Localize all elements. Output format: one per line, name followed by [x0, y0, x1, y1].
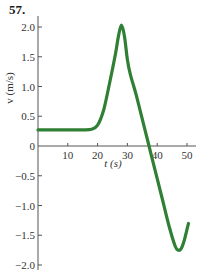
x-tick-label: 10 [62, 149, 74, 161]
y-tick-label: 2.0 [21, 21, 35, 33]
y-tick-label: 1.5 [21, 51, 35, 63]
y-tick-label: 1.0 [21, 81, 35, 93]
x-tick-label: 50 [182, 149, 194, 161]
velocity-time-chart: 10203040502.01.51.00.50−0.5−1.0−1.5−2.0 … [0, 0, 201, 277]
y-axis-label: v (m/s) [3, 72, 16, 104]
y-tick-label: −0.5 [15, 170, 35, 182]
velocity-curve [38, 25, 189, 250]
y-tick-label: 0 [30, 140, 36, 152]
x-tick-label: 20 [92, 149, 104, 161]
x-axis-label: t (s) [104, 157, 122, 170]
y-tick-label: −2.0 [15, 259, 35, 271]
y-tick-label: 0.5 [21, 110, 35, 122]
y-tick-label: −1.5 [15, 229, 35, 241]
x-tick-label: 30 [122, 149, 134, 161]
y-tick-label: −1.0 [15, 200, 35, 212]
